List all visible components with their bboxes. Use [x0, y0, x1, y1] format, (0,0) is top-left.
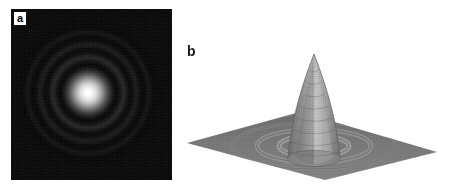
central-peak: [288, 54, 341, 167]
panel-a-image: a: [11, 9, 172, 180]
figure-container: a b: [0, 0, 449, 192]
panel-label-a: a: [14, 12, 26, 25]
airy-pattern-rings: [11, 9, 172, 180]
surface-mesh-svg: [178, 30, 449, 192]
panel-b-surface-plot: b: [178, 30, 449, 192]
